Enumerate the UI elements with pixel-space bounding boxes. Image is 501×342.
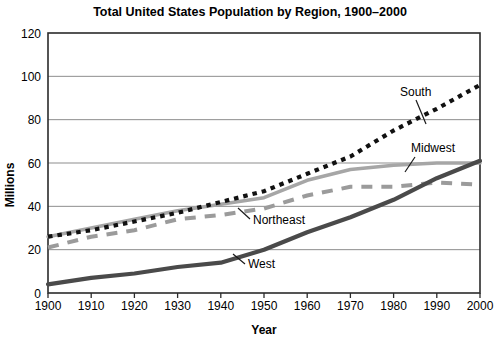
y-tick-label: 20	[28, 243, 42, 257]
annotation-leader-lines	[233, 100, 426, 264]
y-tick-label: 40	[28, 200, 42, 214]
x-axis-tick-labels: 1900191019201930194019501960197019801990…	[35, 299, 494, 313]
x-tick-label: 1990	[423, 299, 450, 313]
x-tick-label: 1900	[35, 299, 62, 313]
y-tick-label: 60	[28, 157, 42, 171]
chart-container: Total United States Population by Region…	[0, 0, 501, 342]
y-axis-tick-labels: 020406080100120	[21, 27, 41, 301]
x-tick-label: 1960	[294, 299, 321, 313]
x-tick-label: 1930	[164, 299, 191, 313]
chart-title: Total United States Population by Region…	[93, 5, 407, 19]
annotation-south: South	[400, 85, 431, 99]
annotation-northeast: Northeast	[253, 213, 306, 227]
y-tick-label: 80	[28, 113, 42, 127]
y-tick-label: 120	[21, 27, 41, 41]
x-tick-label: 1920	[121, 299, 148, 313]
population-line-chart: Total United States Population by Region…	[0, 0, 501, 342]
x-tick-label: 2000	[467, 299, 494, 313]
annotation-west: West	[248, 257, 276, 271]
series-lines	[48, 85, 480, 284]
y-tick-label: 100	[21, 70, 41, 84]
y-axis-label: Millions	[3, 162, 17, 207]
x-axis-label: Year	[251, 323, 277, 337]
x-tick-label: 1940	[207, 299, 234, 313]
x-tick-label: 1980	[380, 299, 407, 313]
x-tick-label: 1950	[251, 299, 278, 313]
x-tick-label: 1970	[337, 299, 364, 313]
annotation-midwest: Midwest	[411, 141, 456, 155]
x-tick-label: 1910	[78, 299, 105, 313]
